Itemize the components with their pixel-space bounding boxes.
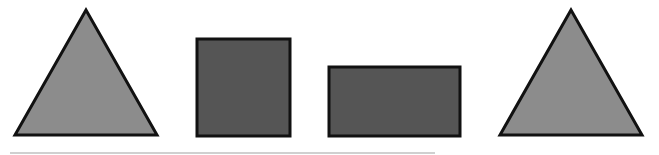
square-shape — [197, 39, 290, 136]
triangle-shape-left — [15, 10, 157, 135]
shapes-diagram — [0, 0, 659, 155]
triangle-shape-right — [500, 10, 642, 135]
rectangle-shape — [329, 67, 460, 136]
